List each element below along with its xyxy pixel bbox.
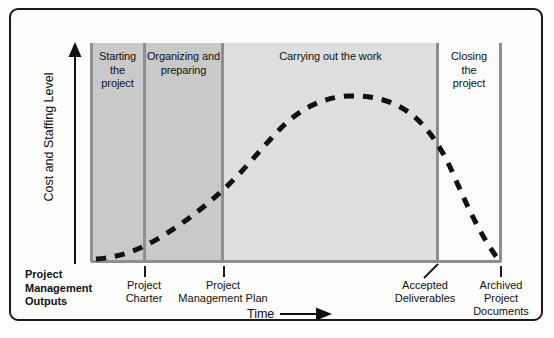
phase-separator-accepted [436,43,439,262]
tick-project-charter [144,266,146,277]
figure-frame: Cost and Staffing Level Starting the pro… [9,8,543,321]
phase-label-closing: Closing the project [438,50,500,91]
output-label-project-management-plan: Project Management Plan [170,279,276,305]
phase-band-closing: Closing the project [438,43,500,262]
right-arrow-icon [280,307,332,321]
phase-label-carrying: Carrying out the work [223,50,438,64]
tick-archived-project-documents [500,266,502,277]
phase-label-starting: Starting the project [91,50,144,91]
phase-separator-plan [221,43,224,262]
x-axis-label: Time [247,307,274,321]
output-label-project-charter: Project Charter [110,279,178,305]
tick-project-management-plan [223,266,225,277]
phase-label-organizing: Organizing and preparing [144,50,223,77]
phase-separator-right-edge [499,43,502,262]
output-label-project-management-outputs: Project Management Outputs [25,268,97,309]
output-label-accepted-deliverables: Accepted Deliverables [382,279,468,305]
x-axis-baseline [91,260,501,263]
phase-separator-charter [143,43,146,262]
output-label-archived-project-documents: Archived Project Documents [463,279,539,318]
phase-separator-left-edge [90,43,93,262]
y-axis [67,42,83,264]
project-life-cycle-diagram: Cost and Staffing Level Starting the pro… [0,0,554,338]
phase-band-carrying-out-the-work: Carrying out the work [223,43,438,262]
x-axis-label-group: Time [247,307,332,321]
y-axis-label: Cost and Staffing Level [42,37,56,237]
up-arrow-icon [67,42,83,264]
phase-band-organizing: Organizing and preparing [144,43,223,262]
phase-band-starting: Starting the project [91,43,144,262]
plot-area: Starting the project Organizing and prep… [91,43,500,262]
